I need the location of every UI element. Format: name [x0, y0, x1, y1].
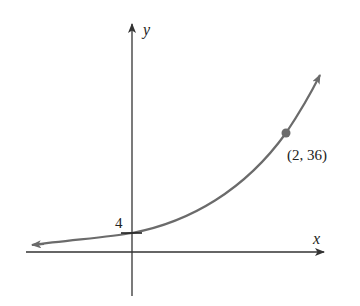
point-label: (2, 36)	[287, 147, 327, 164]
exponential-graph: 4 (2, 36) x y	[0, 0, 360, 306]
exponential-curve	[32, 75, 320, 245]
data-point	[282, 129, 291, 138]
y-axis-label: y	[141, 21, 151, 39]
curve-left-arrow	[32, 244, 44, 245]
y-intercept-label: 4	[115, 215, 123, 231]
x-axis-label: x	[312, 230, 320, 247]
graph-figure: 4 (2, 36) x y	[0, 0, 360, 306]
